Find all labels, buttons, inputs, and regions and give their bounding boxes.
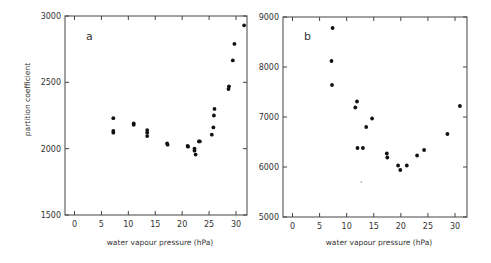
data-point: [385, 152, 389, 156]
y-tick-label: 6000: [259, 163, 279, 172]
x-axis-label: water vapour pressure (hPa): [107, 238, 214, 247]
data-point: [330, 83, 334, 87]
x-tick-label: 30: [450, 222, 460, 231]
data-point: [186, 145, 190, 149]
data-point: [330, 59, 334, 63]
y-tick-label: 2000: [41, 145, 61, 154]
panel-label: b: [304, 30, 311, 43]
x-tick-label: 15: [369, 222, 379, 231]
data-point: [231, 59, 235, 63]
data-point: [145, 134, 149, 138]
y-tick-label: 9000: [259, 13, 279, 22]
x-tick-label: 20: [396, 222, 406, 231]
y-tick-label: 2500: [41, 78, 61, 87]
data-point: [364, 125, 368, 129]
x-tick-label: 30: [231, 220, 241, 229]
data-point: [212, 126, 216, 130]
data-point: [370, 117, 374, 121]
x-tick-label: 0: [72, 220, 77, 229]
data-point: [213, 107, 217, 111]
plot-frame: [65, 16, 247, 215]
data-point: [111, 116, 115, 120]
data-point: [193, 149, 197, 153]
data-point: [398, 168, 402, 172]
panel-a: 0510152025301500200025003000water vapour…: [23, 12, 247, 247]
data-point: [210, 133, 214, 137]
scatter-figure: 0510152025301500200025003000water vapour…: [0, 0, 491, 263]
y-tick-label: 1500: [41, 211, 61, 220]
data-point: [422, 148, 426, 152]
data-point: [415, 154, 419, 158]
x-tick-label: 10: [123, 220, 133, 229]
x-tick-label: 25: [423, 222, 433, 231]
panel-label: a: [86, 30, 93, 43]
data-point: [458, 104, 462, 108]
stray-mark: [361, 181, 363, 183]
data-point: [353, 106, 357, 110]
data-point: [405, 164, 409, 168]
data-point: [194, 153, 198, 157]
plot-frame: [283, 17, 467, 217]
data-point: [198, 140, 202, 144]
x-tick-label: 5: [99, 220, 104, 229]
x-tick-label: 0: [290, 222, 295, 231]
x-tick-label: 10: [342, 222, 352, 231]
x-tick-label: 5: [317, 222, 322, 231]
y-tick-label: 5000: [259, 213, 279, 222]
y-tick-label: 7000: [259, 113, 279, 122]
data-point: [227, 84, 231, 88]
data-point: [361, 146, 365, 150]
data-point: [331, 26, 335, 30]
data-point: [355, 100, 359, 104]
data-point: [111, 131, 115, 135]
data-point: [145, 131, 149, 135]
data-point: [385, 156, 389, 160]
y-tick-label: 3000: [41, 12, 61, 21]
panel-b: 05101520253050006000700080009000water va…: [259, 13, 467, 247]
x-axis-label: water vapour pressure (hPa): [326, 238, 433, 247]
x-tick-label: 15: [150, 220, 160, 229]
x-tick-label: 20: [177, 220, 187, 229]
data-point: [166, 143, 170, 147]
data-point: [212, 114, 216, 118]
y-axis-label: partition coefficient: [23, 63, 32, 136]
y-tick-label: 8000: [259, 63, 279, 72]
data-point: [233, 42, 237, 46]
data-point: [356, 146, 360, 150]
data-point: [446, 132, 450, 136]
data-point: [132, 123, 136, 127]
data-point: [396, 164, 400, 168]
x-tick-label: 25: [204, 220, 214, 229]
figure: 0510152025301500200025003000water vapour…: [0, 0, 491, 263]
data-point: [242, 23, 246, 27]
